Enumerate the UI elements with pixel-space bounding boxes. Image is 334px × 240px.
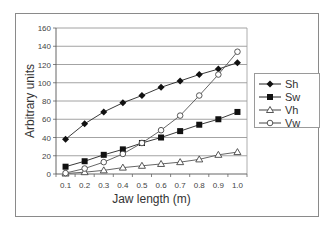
y-tick-label: 0 [47, 170, 52, 179]
data-point [158, 127, 164, 133]
data-point [63, 170, 69, 176]
legend-label: Vh [285, 104, 298, 116]
data-point [177, 113, 183, 119]
data-point [82, 166, 88, 172]
y-tick-label: 160 [38, 24, 52, 33]
y-tick-label: 120 [38, 61, 52, 70]
y-tick-label: 40 [42, 134, 51, 143]
data-point [177, 77, 184, 84]
x-tick-label: 0.9 [213, 181, 225, 190]
open-triangle-marker-icon [259, 104, 283, 116]
data-point [82, 158, 88, 164]
data-point [234, 149, 241, 155]
data-point [216, 72, 222, 78]
data-point [101, 152, 107, 158]
x-tick-label: 1.0 [232, 181, 244, 190]
data-point [158, 84, 165, 91]
data-point [196, 122, 202, 128]
x-axis-label: Jaw length (m) [112, 192, 191, 206]
data-point [139, 140, 145, 146]
data-point [215, 116, 221, 122]
legend-label: Sh [285, 78, 298, 90]
data-point [177, 128, 183, 134]
x-tick-label: 0.5 [136, 181, 148, 190]
x-tick-label: 0.1 [60, 181, 72, 190]
x-tick-label: 0.3 [98, 181, 110, 190]
data-point [158, 135, 164, 141]
x-tick-label: 0.4 [117, 181, 129, 190]
y-tick-label: 20 [42, 152, 51, 161]
open-circle-marker-icon [259, 117, 283, 129]
data-point [196, 93, 202, 99]
data-point [234, 109, 240, 115]
data-point [100, 108, 107, 115]
legend-label: Vw [285, 117, 300, 129]
legend-label: Sw [285, 91, 300, 103]
data-point [235, 49, 241, 55]
data-point [120, 151, 126, 157]
x-tick-label: 0.8 [194, 181, 206, 190]
x-tick-label: 0.2 [79, 181, 91, 190]
filled-diamond-marker-icon [259, 78, 283, 90]
y-tick-label: 100 [38, 79, 52, 88]
data-point [234, 59, 241, 66]
chart-legend: Sh Sw Vh Vw [254, 73, 320, 128]
data-point [196, 71, 203, 78]
y-tick-label: 140 [38, 42, 52, 51]
data-point [101, 159, 107, 165]
data-point [138, 92, 145, 99]
series-line-vh [66, 152, 238, 173]
x-tick-label: 0.6 [155, 181, 167, 190]
filled-square-marker-icon [259, 91, 283, 103]
data-point [63, 164, 69, 170]
y-tick-label: 60 [42, 115, 51, 124]
y-axis-label: Arbitrary units [23, 64, 37, 138]
y-tick-label: 80 [42, 97, 51, 106]
data-point [119, 99, 126, 106]
series-line-vw [66, 52, 238, 173]
x-tick-label: 0.7 [175, 181, 187, 190]
